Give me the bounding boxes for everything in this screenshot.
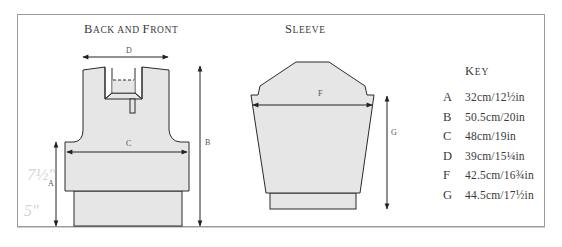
dimension-d-label: D (126, 46, 132, 55)
key-value: 32cm/12½in (465, 91, 525, 103)
title-smallcaps: RONT (150, 25, 178, 35)
key-value: 42.5cm/16¾in (465, 169, 534, 181)
title-initial: B (84, 22, 93, 36)
key-letter: C (443, 129, 465, 144)
key-item-b: B50.5cm/20in (443, 110, 534, 130)
key-letter: F (443, 168, 465, 183)
handwritten-note-lower: 5" (24, 202, 39, 219)
sleeve-piece (251, 62, 374, 209)
key-title-initial: K (465, 64, 475, 78)
handwritten-note-upper: 7½" (27, 165, 56, 184)
dimension-b-label: B (205, 138, 210, 147)
key-value: 39cm/15¼in (465, 150, 525, 162)
key-list: A32cm/12½in B50.5cm/20in C48cm/19in D39c… (443, 90, 534, 207)
key-title-smallcaps: EY (475, 67, 489, 77)
key-item-g: G44.5cm/17½in (443, 188, 534, 208)
dimension-f-label: F (318, 89, 323, 98)
key-title: KEY (465, 64, 489, 79)
key-letter: B (443, 110, 465, 125)
key-letter: A (443, 90, 465, 105)
key-item-d: D39cm/15¼in (443, 149, 534, 169)
key-letter: G (443, 188, 465, 203)
key-letter: D (443, 149, 465, 164)
key-item-c: C48cm/19in (443, 129, 534, 149)
title-initial: S (285, 22, 293, 36)
key-value: 44.5cm/17½in (465, 189, 534, 201)
key-item-f: F42.5cm/16¾in (443, 168, 534, 188)
title-smallcaps: LEEVE (293, 25, 326, 35)
dimension-g-label: G (391, 128, 397, 137)
dimension-c-label: C (126, 139, 131, 148)
sleeve-title: SLEEVE (285, 22, 326, 37)
key-item-a: A32cm/12½in (443, 90, 534, 110)
key-value: 48cm/19in (465, 130, 516, 142)
title-smallcaps: ACK AND (93, 25, 143, 35)
back-front-title: BACK AND FRONT (84, 22, 178, 37)
key-value: 50.5cm/20in (465, 111, 525, 123)
